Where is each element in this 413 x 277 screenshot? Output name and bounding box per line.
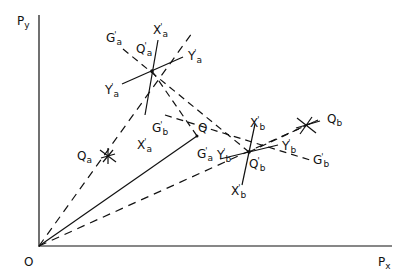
- label-xb-prime-top: X'b: [250, 117, 265, 132]
- diagram-canvas: [0, 0, 413, 277]
- point-label-qa-prime: Q'a: [136, 43, 152, 58]
- ga-prime-line: [123, 49, 249, 152]
- label-xa-prime-bottom: X'a: [137, 139, 152, 154]
- point-label-q: Q: [198, 122, 207, 134]
- label-ga-prime-mid: G'a: [197, 148, 213, 163]
- point-qa-prime: [150, 69, 154, 73]
- origin-label: O: [24, 256, 33, 268]
- ray-o-q: [39, 136, 197, 246]
- label-xb-prime-bottom: X'b: [231, 185, 246, 200]
- label-yb-prime-left: Y'b: [217, 149, 231, 164]
- label-ya-prime-left: Y'a: [105, 84, 119, 99]
- label-gb-prime-right: G'b: [313, 154, 329, 169]
- label-yb-prime-right: Y'b: [282, 140, 296, 155]
- label-gb-prime-mid: G'b: [152, 122, 168, 137]
- label-ga-prime-top: G'a: [106, 32, 122, 47]
- qa-star-marker: [100, 148, 116, 164]
- y-axis-label: Py: [17, 15, 30, 30]
- ray-o-qa-prime: [39, 33, 192, 246]
- point-label-qa: Qa: [77, 150, 92, 165]
- x-axis-label: Px: [378, 256, 391, 271]
- label-ya-prime-right: Y'a: [188, 50, 202, 65]
- point-label-qb-prime: Q'b: [249, 158, 265, 173]
- label-xa-prime-top: X'a: [153, 24, 168, 39]
- point-label-qb: Qb: [327, 113, 342, 128]
- qb-star-marker: [296, 117, 320, 134]
- point-qb-prime: [247, 150, 251, 154]
- xb-prime-line: [242, 124, 255, 185]
